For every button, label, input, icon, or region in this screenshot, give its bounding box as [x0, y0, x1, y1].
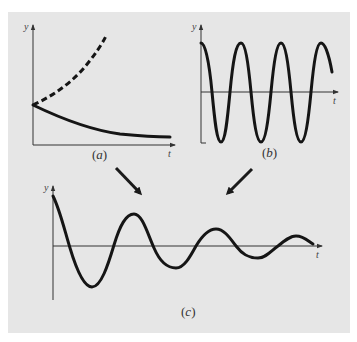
panel-a-caption: (a): [92, 147, 107, 162]
panel-a-y-label: y: [23, 21, 29, 32]
panel-b-y-label: y: [191, 21, 197, 32]
figure-background: [8, 12, 350, 333]
panel-b-t-label: t: [333, 95, 336, 106]
panel-c-y-label: y: [43, 182, 49, 193]
figure: y t (a) y t (b) y t (c): [0, 0, 357, 342]
panel-c-t-label: t: [316, 249, 319, 260]
panel-b-caption: (b): [262, 145, 277, 160]
panel-a-t-label: t: [168, 148, 171, 159]
panel-c-caption: (c): [181, 304, 195, 319]
